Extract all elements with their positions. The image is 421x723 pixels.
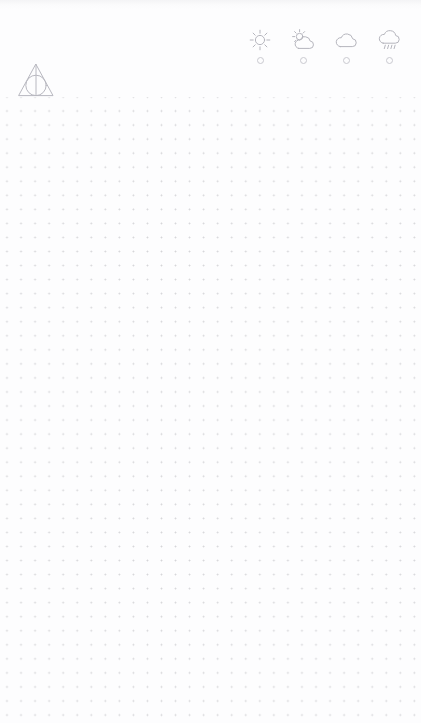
sun-icon [246,28,274,52]
weather-selector [245,28,404,64]
deathly-hallows-symbol[interactable] [17,62,55,99]
rain-cloud-icon [375,28,403,52]
weather-option-partly-cloudy[interactable] [288,28,318,64]
top-edge-strip [0,0,421,9]
weather-option-cloudy[interactable] [331,28,361,64]
weather-radio-partly-cloudy[interactable] [300,57,307,64]
weather-option-rainy[interactable] [374,28,404,64]
weather-option-sunny[interactable] [245,28,275,64]
cloud-icon [332,28,360,52]
notebook-page [0,0,421,723]
weather-radio-cloudy[interactable] [343,57,350,64]
dotted-paper-grid [0,97,421,723]
weather-radio-rainy[interactable] [386,57,393,64]
weather-radio-sunny[interactable] [257,57,264,64]
sun-behind-cloud-icon [289,28,317,52]
